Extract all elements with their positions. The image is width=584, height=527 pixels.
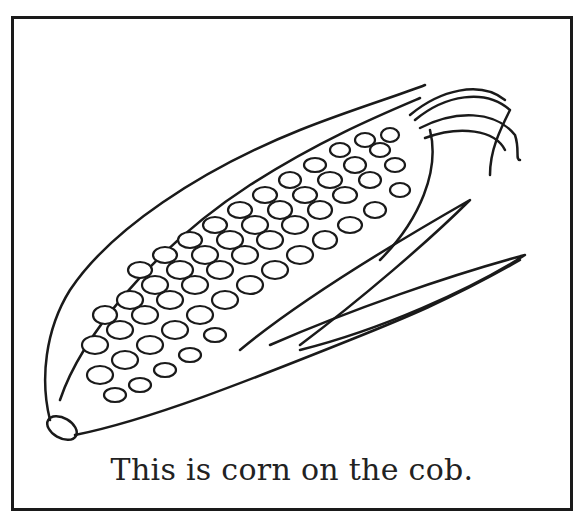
corn-illustration — [0, 0, 584, 527]
leaf-2 — [270, 255, 525, 350]
caption: This is corn on the cob. — [0, 452, 584, 487]
